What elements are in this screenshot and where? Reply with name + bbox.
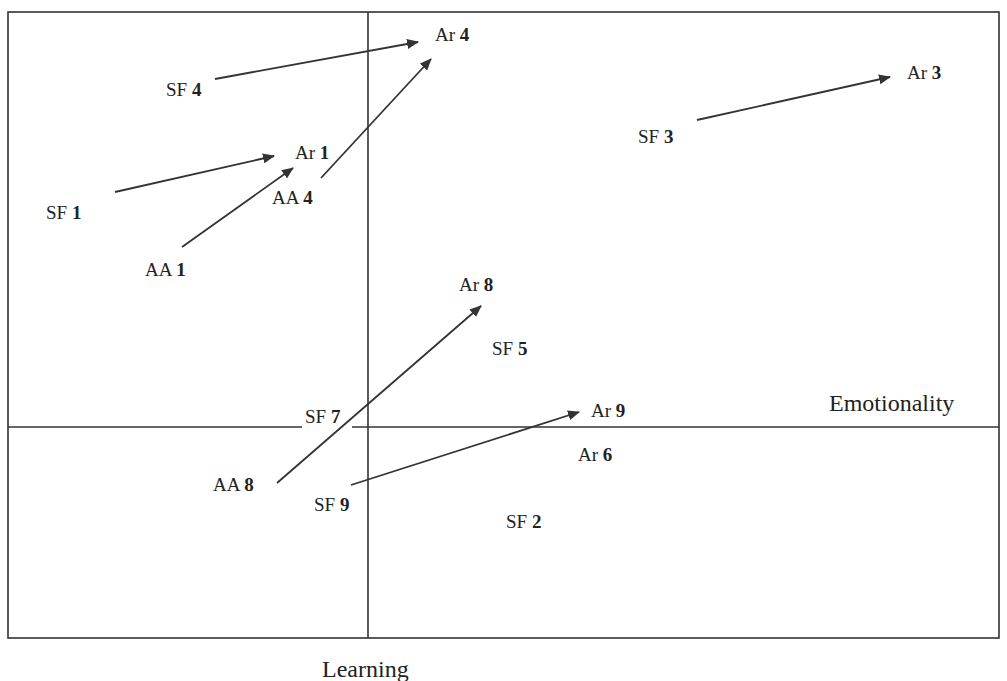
node-label-aa8: AA 8: [213, 474, 254, 495]
node-label-sf4: SF 4: [166, 79, 202, 100]
arrow-sf9-to-ar9: [351, 412, 579, 485]
node-label-sf3: SF 3: [638, 126, 673, 147]
node-label-aa1: AA 1: [145, 259, 186, 280]
node-label-sf7: SF 7: [305, 406, 341, 427]
arrow-aa8-to-ar8: [277, 306, 481, 483]
arrows: [115, 42, 890, 485]
node-label-sf5: SF 5: [492, 338, 527, 359]
learning-axis-label: Learning: [322, 656, 409, 681]
arrow-sf3-to-ar3: [697, 77, 890, 120]
node-label-aa4: AA 4: [272, 187, 313, 208]
positioning-diagram: SF 4Ar 4Ar 1SF 1AA 4AA 1SF 3Ar 3Ar 8SF 5…: [0, 0, 1007, 681]
node-label-sf1: SF 1: [46, 202, 81, 223]
node-label-ar1: Ar 1: [295, 142, 329, 163]
node-label-sf2: SF 2: [506, 511, 541, 532]
arrow-aa4-to-ar4: [321, 59, 431, 178]
diagram-frame: [8, 12, 999, 638]
arrow-sf1-to-ar1: [115, 156, 274, 192]
node-label-ar4: Ar 4: [435, 24, 470, 45]
arrow-sf4-to-ar4: [215, 42, 418, 79]
node-label-sf9: SF 9: [314, 494, 349, 515]
emotionality-axis-label: Emotionality: [829, 390, 954, 416]
node-label-ar6: Ar 6: [578, 444, 612, 465]
node-label-ar9: Ar 9: [591, 400, 625, 421]
node-label-ar3: Ar 3: [907, 62, 941, 83]
axes: [8, 12, 999, 638]
nodes: SF 4Ar 4Ar 1SF 1AA 4AA 1SF 3Ar 3Ar 8SF 5…: [46, 24, 941, 532]
node-label-ar8: Ar 8: [459, 274, 493, 295]
